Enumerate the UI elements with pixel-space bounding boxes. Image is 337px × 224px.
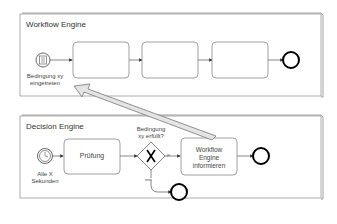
yes-label: ja: [167, 152, 170, 159]
label-line: Workflow: [196, 146, 223, 153]
timer-label: Alle X Sekunden: [28, 171, 62, 185]
label-line: Sekunden: [31, 178, 58, 184]
label-line: Engine: [199, 154, 219, 161]
task-inform: Workflow Engine informieren: [181, 146, 237, 170]
pool-title-decision: Decision Engine: [26, 122, 84, 131]
task-pruefung: Prüfung: [64, 152, 120, 159]
bpmn-diagram: [0, 0, 337, 224]
label-line: xy erfüllt?: [138, 133, 164, 139]
no-label: nein: [145, 177, 152, 184]
gateway-label: Bedingung xy erfüllt?: [128, 126, 174, 140]
pool-title-workflow: Workflow Engine: [26, 20, 86, 29]
label-line: Alle X: [37, 171, 53, 177]
label-line: informieren: [193, 162, 226, 169]
label-line: Bedingung: [137, 126, 166, 132]
label-line: eingetreten: [30, 80, 60, 86]
label-line: Bedingung xy: [27, 73, 63, 79]
start-event-label: Bedingung xy eingetreten: [22, 73, 68, 87]
